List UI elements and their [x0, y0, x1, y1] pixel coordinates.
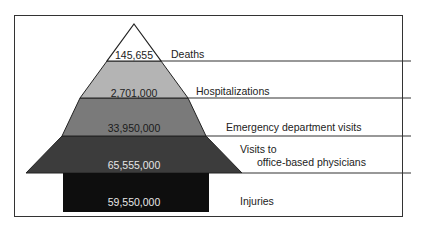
value-office-visits: 65,555,000 — [108, 159, 161, 171]
label-ed-visits: Emergency department visits — [226, 121, 361, 133]
value-ed-visits: 33,950,000 — [108, 122, 161, 134]
label-injuries: Injuries — [240, 195, 274, 207]
value-injuries: 59,550,000 — [108, 196, 161, 208]
label-office-visits-line1: Visits to — [240, 143, 277, 155]
label-office-visits-line2: office-based physicians — [257, 156, 366, 168]
pyramid-graphic — [0, 0, 432, 228]
label-hospitalizations: Hospitalizations — [196, 85, 270, 97]
value-deaths: 145,655 — [115, 49, 153, 61]
label-deaths: Deaths — [171, 48, 204, 60]
value-hospitalizations: 2,701,000 — [111, 87, 158, 99]
